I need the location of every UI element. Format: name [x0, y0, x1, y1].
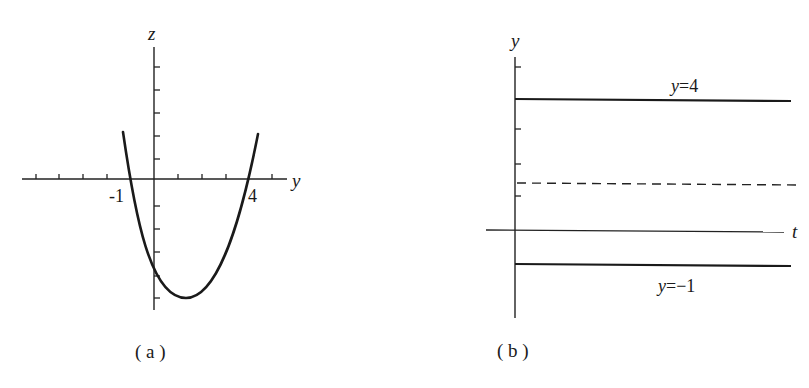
panel-a-root-left-label: -1	[109, 186, 124, 206]
panel-b-y-label: y	[509, 30, 520, 51]
panel-b-y4-label-value: =4	[679, 76, 698, 96]
panel-b-y-minus-1-label-value: =−1	[666, 276, 695, 296]
panel-a-caption: ( a )	[135, 341, 166, 363]
panel-b: y t y=4 y=−1 ( b )	[486, 30, 799, 362]
panel-a-root-right-label: 4	[248, 186, 257, 206]
panel-b-line-y4	[515, 99, 791, 101]
panel-b-t-axis	[486, 230, 784, 232]
panel-a-parabola	[123, 132, 258, 298]
panel-b-y-ticks	[515, 67, 521, 196]
panel-a: z y -1 4 ( a )	[22, 23, 301, 363]
panel-a-z-label: z	[147, 23, 156, 44]
panel-b-y-minus-1-label: y=−1	[656, 276, 695, 296]
panel-b-y4-label: y=4	[669, 76, 698, 96]
panel-b-line-y-minus-1	[515, 264, 791, 266]
panel-a-y-label: y	[290, 170, 301, 191]
panel-b-t-label: t	[792, 221, 798, 242]
panel-b-caption: ( b )	[497, 340, 529, 362]
panel-b-dashed-line	[517, 183, 799, 185]
figure: z y -1 4 ( a ) y t y=4 y=−1 ( b )	[0, 0, 809, 388]
panel-a-z-ticks	[154, 67, 160, 298]
